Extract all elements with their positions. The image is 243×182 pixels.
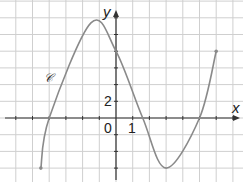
x-tick-label-1: 1: [128, 120, 136, 136]
curve-c: [41, 20, 216, 168]
x-axis-label: x: [231, 99, 240, 116]
y-axis-arrow-icon: [113, 10, 119, 17]
left-endpoint: [39, 166, 43, 170]
origin-label: 0: [104, 120, 112, 136]
function-graph: x y 0 1 2 𝒞: [0, 0, 243, 182]
y-tick-label-2: 2: [104, 93, 112, 109]
curve-label: 𝒞: [44, 71, 56, 85]
right-endpoint: [214, 49, 218, 53]
grid: [0, 0, 243, 182]
